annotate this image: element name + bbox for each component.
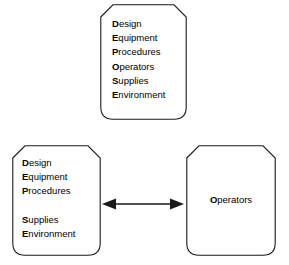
factor-rest: nvironment <box>28 228 75 239</box>
operator-factor-box[interactable]: Operators <box>186 145 276 256</box>
factor-line-environment: Environment <box>22 227 75 241</box>
factor-rest: rocedures <box>28 185 70 196</box>
factor-line-procedures: Procedures <box>112 45 165 59</box>
factor-rest: perators <box>217 194 252 205</box>
double-headed-arrow <box>99 192 187 216</box>
factor-line-supplies: Supplies <box>112 74 165 88</box>
factor-rest: nvironment <box>118 89 165 100</box>
factor-initial: D <box>112 18 119 29</box>
factor-line-operators: Operators <box>112 60 165 74</box>
factor-line-gap <box>22 199 75 213</box>
factor-line-design: Design <box>22 156 75 170</box>
arrowhead-left-icon <box>102 199 116 210</box>
system-factors-text: Design Equipment Procedures Supplies Env… <box>22 156 75 241</box>
factor-line-procedures: Procedures <box>22 184 75 198</box>
factor-line-equipment: Equipment <box>112 31 165 45</box>
factor-rest: perators <box>119 61 154 72</box>
arrowhead-right-icon <box>170 199 184 210</box>
diagram-canvas: Design Equipment Procedures Operators Su… <box>0 0 289 265</box>
factor-line-environment: Environment <box>112 88 165 102</box>
factor-line-design: Design <box>112 17 165 31</box>
system-factors-box[interactable]: Design Equipment Procedures Supplies Env… <box>12 145 101 256</box>
factor-initial: D <box>22 157 29 168</box>
all-factors-box[interactable]: Design Equipment Procedures Operators Su… <box>100 4 187 120</box>
factor-line-equipment: Equipment <box>22 170 75 184</box>
factor-rest: upplies <box>118 75 148 86</box>
all-factors-text: Design Equipment Procedures Operators Su… <box>112 17 165 102</box>
factor-rest: esign <box>29 157 52 168</box>
factor-rest: quipment <box>118 32 157 43</box>
factor-rest: upplies <box>28 214 58 225</box>
factor-rest: rocedures <box>118 46 160 57</box>
factor-line-operators: Operators <box>210 193 252 207</box>
factor-rest: quipment <box>28 171 67 182</box>
operator-factor-text: Operators <box>186 145 276 256</box>
factor-rest: esign <box>119 18 142 29</box>
factor-line-supplies: Supplies <box>22 213 75 227</box>
